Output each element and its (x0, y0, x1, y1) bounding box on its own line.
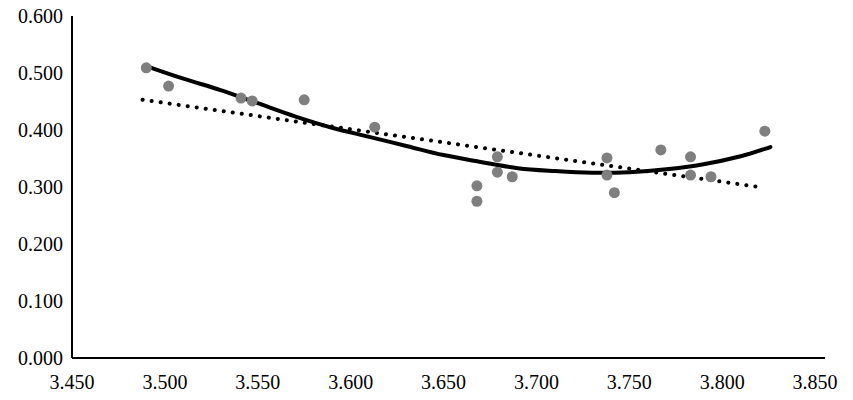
scatter-point (236, 93, 247, 104)
scatter-point (507, 171, 518, 182)
scatter-point (163, 81, 174, 92)
y-axis-tick-label: 0.600 (0, 6, 63, 26)
x-axis-tick-label: 3.450 (50, 372, 95, 392)
x-axis-tick-label: 3.550 (235, 372, 280, 392)
scatter-point (492, 151, 503, 162)
scatter-point (141, 62, 152, 73)
scatter-point (685, 151, 696, 162)
y-axis-tick-label: 0.300 (0, 177, 63, 197)
scatter-point (471, 196, 482, 207)
axis-lines (72, 16, 825, 358)
scatter-point (299, 94, 310, 105)
plot-area (0, 0, 853, 400)
linear-trendline (143, 100, 760, 187)
scatter-point (655, 144, 666, 155)
scatter-point (601, 152, 612, 163)
x-axis-tick-label: 3.800 (700, 372, 745, 392)
scatter-point (601, 170, 612, 181)
scatter-point (609, 187, 620, 198)
chart-container: 0.0000.1000.2000.3000.4000.5000.600 3.45… (0, 0, 853, 400)
x-axis-tick-label: 3.650 (421, 372, 466, 392)
quadratic-trendline-path (146, 66, 770, 173)
scatter-point (471, 180, 482, 191)
y-axis-tick-label: 0.500 (0, 63, 63, 83)
scatter-point (492, 167, 503, 178)
x-axis-tick-label: 3.850 (793, 372, 838, 392)
x-axis-tick-label: 3.500 (142, 372, 187, 392)
scatter-point (759, 126, 770, 137)
x-axis-tick-label: 3.750 (607, 372, 652, 392)
y-axis-tick-label: 0.100 (0, 291, 63, 311)
y-axis-tick-label: 0.200 (0, 234, 63, 254)
y-axis-tick-label: 0.000 (0, 348, 63, 368)
x-axis-tick-label: 3.600 (328, 372, 373, 392)
scatter-point (369, 122, 380, 133)
quadratic-trendline (146, 66, 770, 173)
scatter-point (685, 170, 696, 181)
y-axis-tick-label: 0.400 (0, 120, 63, 140)
x-axis-tick-label: 3.700 (514, 372, 559, 392)
linear-trendline-path (143, 100, 760, 187)
scatter-point (705, 171, 716, 182)
scatter-markers (141, 62, 771, 206)
scatter-point (247, 95, 258, 106)
